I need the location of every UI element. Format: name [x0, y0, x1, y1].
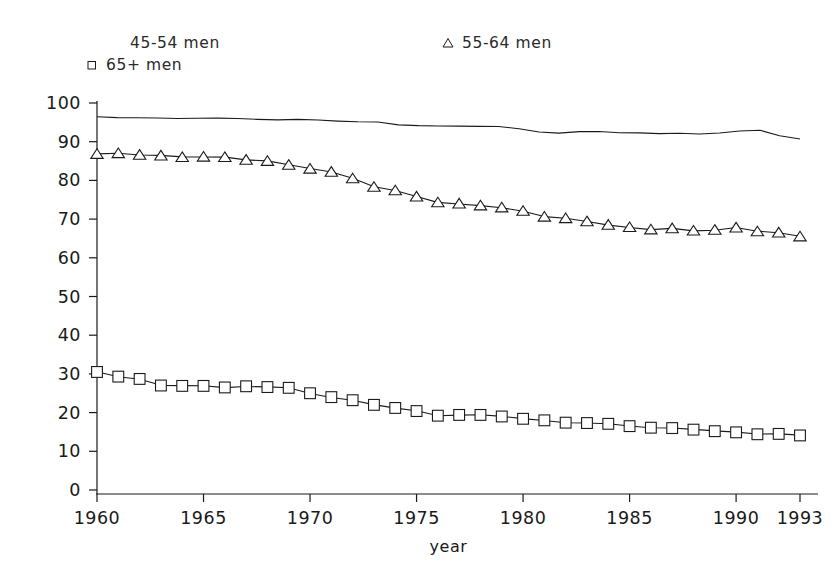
data-point-marker [410, 191, 422, 201]
x-tick-label: 1975 [393, 508, 440, 528]
data-point-marker [197, 152, 209, 162]
data-point-marker [92, 367, 103, 378]
x-tick-label: 1965 [180, 508, 227, 528]
data-point-marker [624, 421, 635, 432]
y-tick-label: 70 [58, 209, 81, 229]
data-point-marker [241, 381, 252, 392]
plot-area: 0102030405060708090100196019651970197519… [0, 0, 836, 573]
chart-screenshot: 45-54 men 55-64 men 65+ men 010203040506… [0, 0, 836, 573]
y-tick-label: 100 [46, 93, 81, 113]
y-tick-label: 30 [58, 364, 81, 384]
data-point-marker [603, 418, 614, 429]
y-tick-label: 0 [69, 480, 81, 500]
data-point-marker [560, 417, 571, 428]
y-tick-label: 40 [58, 325, 81, 345]
data-point-marker [645, 422, 656, 433]
data-point-marker [369, 399, 380, 410]
data-point-marker [731, 427, 742, 438]
data-point-marker [134, 374, 145, 385]
data-point-marker [539, 415, 550, 426]
tick-label-layer: 0102030405060708090100196019651970197519… [46, 93, 823, 556]
data-point-marker [475, 410, 486, 421]
data-point-marker [688, 424, 699, 435]
data-point-marker [582, 418, 593, 429]
data-point-marker [752, 429, 763, 440]
data-point-marker [432, 410, 443, 421]
y-tick-label: 90 [58, 132, 81, 152]
data-point-marker [346, 173, 358, 183]
data-point-marker [496, 411, 507, 422]
data-point-marker [538, 212, 550, 222]
data-point-marker [666, 223, 678, 233]
data-point-marker [368, 182, 380, 192]
data-point-marker [518, 413, 529, 424]
data-point-marker [326, 392, 337, 403]
data-point-marker [177, 380, 188, 391]
data-point-marker [390, 403, 401, 414]
data-point-marker [283, 382, 294, 393]
data-point-marker [347, 395, 358, 406]
x-tick-label: 1990 [713, 508, 760, 528]
data-point-marker [773, 428, 784, 439]
y-tick-label: 60 [58, 248, 81, 268]
data-point-marker [411, 406, 422, 417]
x-tick-label: 1985 [606, 508, 653, 528]
data-point-marker [667, 423, 678, 434]
y-tick-label: 20 [58, 403, 81, 423]
y-tick-label: 50 [58, 287, 81, 307]
x-tick-label: 1970 [287, 508, 334, 528]
data-point-marker [454, 410, 465, 421]
data-point-marker [156, 380, 167, 391]
data-point-marker [305, 388, 316, 399]
data-point-marker [262, 382, 273, 393]
x-axis-title: year [429, 537, 467, 556]
data-point-marker [198, 380, 209, 391]
x-tick-label: 1993 [777, 508, 824, 528]
x-tick-label: 1960 [74, 508, 121, 528]
series-line [97, 117, 800, 139]
data-point-marker [709, 426, 720, 437]
data-point-marker [730, 222, 742, 232]
series-line [97, 153, 800, 236]
data-point-marker [432, 197, 444, 207]
data-point-marker [219, 382, 230, 393]
y-tick-label: 80 [58, 170, 81, 190]
data-point-marker [113, 371, 124, 382]
series-layer [91, 117, 806, 441]
series-1 [97, 117, 800, 139]
y-tick-label: 10 [58, 441, 81, 461]
series-2 [91, 148, 806, 241]
series-3 [92, 367, 806, 441]
x-tick-label: 1980 [500, 508, 547, 528]
data-point-marker [795, 430, 806, 441]
data-point-marker [304, 164, 316, 174]
